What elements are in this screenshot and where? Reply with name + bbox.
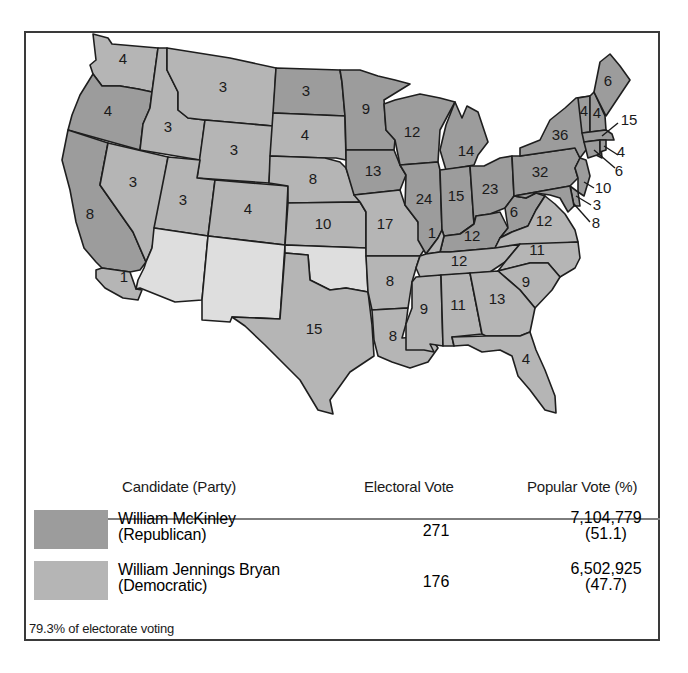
ev-alabama: 11 [450, 296, 466, 313]
popular-vote-cell: 7,104,779 (51.1) [561, 510, 651, 542]
ev-montana: 3 [219, 78, 227, 95]
ev-wisconsin: 12 [404, 123, 421, 140]
ev-new-hampshire: 4 [593, 104, 601, 121]
ev-missouri: 17 [377, 215, 394, 232]
ev-massachusetts: 15 [621, 111, 638, 128]
legend-row-bryan: William Jennings Bryan (Democratic) 176 … [26, 561, 658, 601]
state-connecticut[interactable] [584, 140, 600, 158]
ev-maine: 6 [604, 72, 612, 89]
electoral-vote: 176 [406, 573, 466, 591]
ev-oregon: 4 [104, 102, 112, 119]
ev-north-dakota: 3 [302, 82, 310, 99]
ev-minnesota: 9 [362, 100, 370, 117]
popular-vote: 6,502,925 [561, 561, 651, 577]
ev-rhode-island: 4 [617, 143, 625, 160]
ev-pennsylvania: 32 [532, 163, 549, 180]
ev-indiana: 15 [448, 187, 465, 204]
ev-georgia: 13 [489, 290, 506, 307]
ev-mississippi: 9 [420, 300, 428, 317]
header-electoral: Electoral Vote [364, 478, 454, 495]
ev-west-virginia: 6 [510, 203, 518, 220]
ev-colorado: 4 [244, 200, 252, 217]
ev-north-carolina: 11 [529, 241, 545, 258]
candidate-name: William Jennings Bryan [118, 562, 280, 578]
ev-vermont: 4 [580, 102, 588, 119]
ev-arkansas: 8 [386, 272, 394, 289]
ev-utah: 3 [179, 191, 187, 208]
candidate-cell: William McKinley (Republican) [118, 511, 236, 543]
legend-header: Candidate (Party) Electoral Vote Popular… [26, 470, 658, 504]
popular-vote-cell: 6,502,925 (47.7) [561, 561, 651, 593]
swatch-democratic [34, 561, 108, 600]
candidate-name: William McKinley [118, 511, 236, 527]
header-candidate: Candidate (Party) [122, 478, 236, 495]
legend-table: Candidate (Party) Electoral Vote Popular… [26, 470, 658, 504]
ev-kentucky: 12 [464, 227, 481, 244]
popular-percent: (51.1) [561, 526, 651, 542]
ev-idaho: 3 [164, 118, 172, 135]
ev-new-jersey: 10 [595, 179, 612, 196]
ev-kansas: 10 [315, 215, 332, 232]
ev-delaware: 3 [593, 196, 601, 213]
candidate-party: (Republican) [118, 527, 236, 543]
ev-new-york: 36 [552, 126, 569, 143]
territory-new-mexico[interactable] [202, 236, 285, 322]
leader-connecticut [594, 150, 615, 168]
ev-south-dakota: 4 [301, 126, 309, 143]
ev-texas: 15 [306, 320, 323, 337]
ev-connecticut: 6 [615, 162, 623, 179]
ev-california-split: 1 [120, 268, 128, 285]
state-new-jersey[interactable] [575, 158, 590, 196]
ev-ohio: 23 [482, 180, 499, 197]
ev-south-carolina: 9 [522, 273, 530, 290]
ev-virginia: 12 [536, 212, 553, 229]
header-popular: Popular Vote (%) [527, 478, 637, 495]
leader-maryland [574, 204, 590, 222]
ev-michigan: 14 [458, 142, 475, 159]
ev-california: 8 [86, 205, 94, 222]
candidate-cell: William Jennings Bryan (Democratic) [118, 562, 280, 594]
state-florida[interactable] [452, 332, 556, 413]
ev-kentucky-split: 1 [428, 224, 436, 241]
ev-nevada: 3 [129, 173, 137, 190]
ev-illinois: 24 [416, 190, 433, 207]
ev-tennessee: 12 [451, 252, 468, 269]
ev-washington: 4 [119, 50, 127, 67]
candidate-party: (Democratic) [118, 578, 280, 594]
popular-percent: (47.7) [561, 577, 651, 593]
turnout-note: 79.3% of electorate voting [29, 621, 174, 636]
ev-louisiana: 8 [389, 327, 397, 344]
ev-florida: 4 [522, 350, 530, 367]
ev-maryland: 8 [592, 214, 600, 231]
popular-vote: 7,104,779 [561, 510, 651, 526]
election-map: 4 4 8 1 3 3 3 3 3 4 3 4 8 10 15 9 13 17 … [0, 0, 688, 440]
electoral-vote: 271 [406, 522, 466, 540]
ev-nebraska: 8 [309, 170, 317, 187]
legend-row-mckinley: William McKinley (Republican) 271 7,104,… [26, 510, 658, 550]
swatch-republican [34, 510, 108, 549]
ev-wyoming: 3 [230, 141, 238, 158]
ev-iowa: 13 [365, 162, 382, 179]
